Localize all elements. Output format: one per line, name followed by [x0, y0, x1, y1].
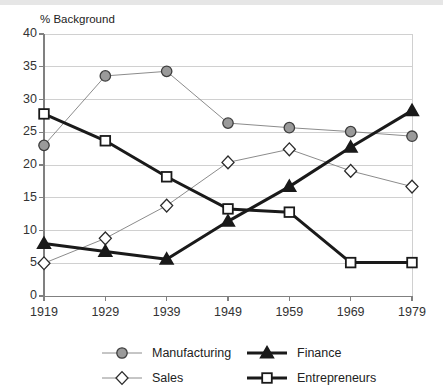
x-tick-label: 1919: [14, 305, 74, 319]
y-tick-label: 40: [11, 26, 37, 40]
y-tick-label: 20: [11, 157, 37, 171]
y-tick-label: 10: [11, 223, 37, 237]
legend-item-finance[interactable]: Finance: [245, 343, 341, 363]
legend-label-entrepreneurs: Entrepreneurs: [297, 371, 376, 385]
y-tick-label: 5: [11, 255, 37, 269]
x-tick-label: 1969: [321, 305, 381, 319]
y-tick-label: 35: [11, 59, 37, 73]
legend-label-sales: Sales: [152, 371, 183, 385]
x-tick-label: 1929: [75, 305, 135, 319]
legend-label-finance: Finance: [297, 346, 341, 360]
line-chart: % Background 0510152025303540 1919192919…: [0, 0, 443, 392]
y-tick-label: 15: [11, 190, 37, 204]
x-tick-label: 1939: [137, 305, 197, 319]
legend-row: Manufacturing Finance: [100, 340, 430, 365]
x-tick-label: 1959: [259, 305, 319, 319]
x-tick-label: 1949: [198, 305, 258, 319]
chart-legend: Manufacturing Finance Sales Entrepreneur…: [100, 340, 430, 390]
y-tick-label: 30: [11, 92, 37, 106]
legend-swatch-manufacturing: [100, 343, 144, 363]
legend-item-entrepreneurs[interactable]: Entrepreneurs: [245, 368, 376, 388]
y-tick-label: 0: [11, 288, 37, 302]
legend-label-manufacturing: Manufacturing: [152, 346, 231, 360]
legend-swatch-sales: [100, 368, 144, 388]
legend-swatch-entrepreneurs: [245, 368, 289, 388]
plot-area: [0, 0, 443, 392]
legend-item-manufacturing[interactable]: Manufacturing: [100, 343, 245, 363]
legend-swatch-finance: [245, 343, 289, 363]
legend-item-sales[interactable]: Sales: [100, 368, 245, 388]
y-tick-label: 25: [11, 124, 37, 138]
x-tick-label: 1979: [382, 305, 442, 319]
legend-row: Sales Entrepreneurs: [100, 365, 430, 390]
